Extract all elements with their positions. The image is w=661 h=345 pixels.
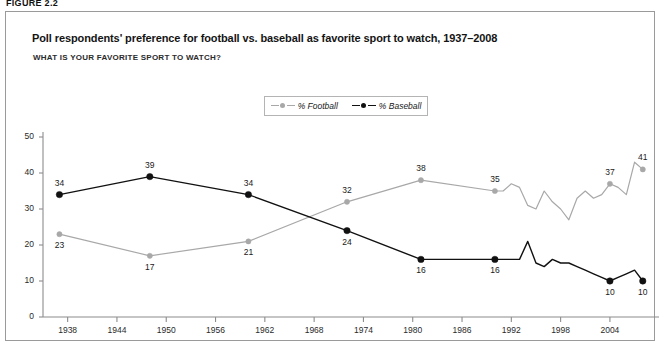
x-axis-tick-label: 1938 [52, 325, 84, 335]
y-axis-tick-label: 30 [16, 203, 34, 213]
y-axis-tick-label: 50 [16, 131, 34, 141]
x-axis-tick-label: 1980 [397, 325, 429, 335]
chart-panel: Poll respondents' preference for footbal… [5, 11, 655, 341]
data-point-label: 10 [599, 287, 621, 297]
legend-label-baseball: % Baseball [379, 101, 422, 111]
data-point-label: 10 [632, 287, 654, 297]
x-axis-tick-label: 1992 [495, 325, 527, 335]
x-axis-tick-label: 1986 [446, 325, 478, 335]
legend-label-football: % Football [298, 101, 338, 111]
data-point-label: 38 [410, 163, 432, 173]
x-axis-tick-label: 1968 [298, 325, 330, 335]
figure-label: FIGURE 2.2 [6, 0, 58, 8]
x-axis-tick-label: 1962 [249, 325, 281, 335]
data-point-label: 16 [410, 265, 432, 275]
y-axis-tick-label: 0 [16, 311, 34, 321]
legend-item-baseball: % Baseball [352, 101, 422, 111]
chart-legend: % Football % Baseball [264, 96, 428, 116]
figure-container: FIGURE 2.2 Poll respondents' preference … [0, 0, 661, 345]
data-point-label: 24 [336, 237, 358, 247]
data-point-label: 16 [484, 265, 506, 275]
legend-marker-baseball-icon [352, 102, 376, 110]
x-axis-tick-label: 1944 [101, 325, 133, 335]
legend-item-football: % Football [271, 101, 338, 111]
data-point-label: 37 [599, 167, 621, 177]
y-axis-tick-label: 20 [16, 239, 34, 249]
y-axis-tick-label: 10 [16, 275, 34, 285]
data-point-label: 34 [48, 178, 70, 188]
data-point-label: 17 [139, 262, 161, 272]
data-point-label: 41 [632, 152, 654, 162]
x-axis-tick-label: 1950 [150, 325, 182, 335]
data-point-label: 23 [48, 240, 70, 250]
x-axis-tick-label: 1956 [200, 325, 232, 335]
y-axis-tick-label: 40 [16, 167, 34, 177]
data-point-label: 34 [237, 178, 259, 188]
data-point-label: 39 [139, 160, 161, 170]
data-point-label: 32 [336, 185, 358, 195]
x-axis-tick-label: 2004 [594, 325, 626, 335]
legend-marker-football-icon [271, 102, 295, 110]
x-axis-tick-label: 1974 [347, 325, 379, 335]
data-point-label: 21 [237, 247, 259, 257]
data-point-label: 35 [484, 174, 506, 184]
chart-subtitle: WHAT IS YOUR FAVORITE SPORT TO WATCH? [33, 53, 221, 62]
page-title: Poll respondents' preference for footbal… [32, 32, 497, 44]
x-axis-tick-label: 1998 [545, 325, 577, 335]
